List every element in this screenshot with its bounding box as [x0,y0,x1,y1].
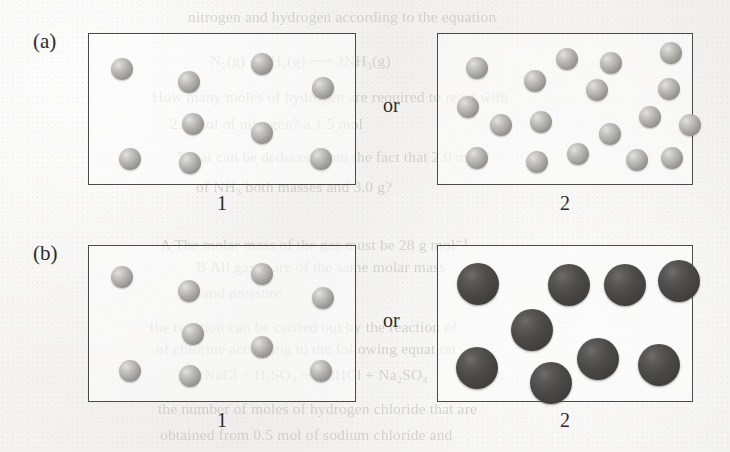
dark-sphere [604,264,646,306]
dark-sphere [457,263,499,305]
light-sphere [179,365,201,387]
light-sphere [251,336,273,358]
dark-sphere [530,362,572,404]
light-sphere [119,360,141,382]
dark-sphere [658,260,700,302]
light-sphere [567,143,589,165]
or-connector-row-a: or [383,95,400,115]
light-sphere [111,266,133,288]
light-sphere [178,280,200,302]
light-sphere [599,123,621,145]
light-sphere [526,151,548,173]
light-sphere [586,79,608,101]
light-sphere [251,53,273,75]
light-sphere [111,58,133,80]
light-sphere [658,78,680,100]
dark-sphere [577,338,619,380]
panel-number-panel-b-1: 1 [88,410,356,430]
light-sphere [524,70,546,92]
dark-sphere [638,344,680,386]
dark-sphere [511,309,553,351]
light-sphere [251,122,273,144]
light-sphere [466,147,488,169]
row-letter-label-row-a: (a) [33,31,56,52]
light-sphere [310,360,332,382]
light-sphere [466,57,488,79]
light-sphere [179,152,201,174]
light-sphere [661,147,683,169]
light-sphere [556,48,578,70]
light-sphere [119,148,141,170]
light-sphere [600,52,622,74]
figure-page: nitrogen and hydrogen according to the e… [0,0,730,452]
light-sphere [626,149,648,171]
light-sphere [312,287,334,309]
light-sphere [639,106,661,128]
light-sphere [178,71,200,93]
light-sphere [530,111,552,133]
or-connector-row-b: or [383,310,400,330]
row-letter-label-row-b: (b) [33,243,58,264]
panel-number-panel-b-2: 2 [437,410,693,430]
light-sphere [182,113,204,135]
figure-content: (a)or12(b)or12 [0,0,730,452]
panel-number-panel-a-1: 1 [88,193,356,213]
dark-sphere [548,264,590,306]
light-sphere [182,323,204,345]
panel-number-panel-a-2: 2 [437,193,693,213]
light-sphere [679,114,701,136]
light-sphere [310,148,332,170]
light-sphere [490,114,512,136]
dark-sphere [456,347,498,389]
light-sphere [660,42,682,64]
light-sphere [251,263,273,285]
light-sphere [457,96,479,118]
light-sphere [312,77,334,99]
